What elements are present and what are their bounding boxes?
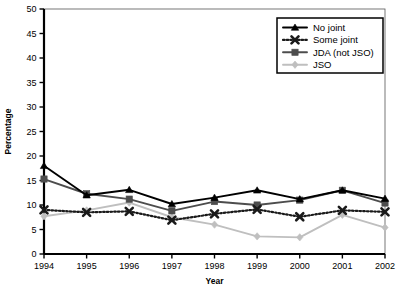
y-tick-label: 30 — [26, 102, 36, 112]
legend-label: JSO — [313, 59, 331, 70]
legend-label: No joint — [313, 22, 346, 33]
x-tick-label: 1994 — [34, 261, 54, 271]
y-axis-title: Percentage — [3, 108, 13, 154]
marker-diamond — [297, 234, 303, 241]
marker-triangle — [40, 162, 47, 168]
y-tick-label: 35 — [26, 78, 36, 88]
chart-container: 05101520253035404550Percentage1994199519… — [0, 0, 405, 289]
marker-diamond — [254, 233, 260, 240]
x-tick-label: 1997 — [162, 261, 182, 271]
marker-square — [169, 208, 175, 214]
y-tick-label: 25 — [26, 127, 36, 137]
marker-square — [292, 49, 298, 55]
y-tick-label: 15 — [26, 176, 36, 186]
marker-diamond — [382, 224, 388, 231]
legend-label: JDA (not JSO) — [313, 47, 374, 58]
x-tick-label: 1996 — [119, 261, 139, 271]
marker-square — [41, 176, 47, 182]
y-tick-label: 10 — [26, 200, 36, 210]
y-tick-label: 5 — [31, 225, 36, 235]
y-tick-label: 0 — [31, 249, 36, 259]
x-tick-label: 2002 — [375, 261, 395, 271]
series-jso — [41, 199, 388, 241]
line-chart: 05101520253035404550Percentage1994199519… — [0, 0, 405, 289]
legend: No jointSome jointJDA (not JSO)JSO — [277, 18, 383, 73]
x-tick-label: 1998 — [204, 261, 224, 271]
x-axis-title: Year — [206, 276, 225, 286]
y-tick-label: 40 — [26, 53, 36, 63]
series-no-joint — [40, 162, 388, 207]
marker-square — [126, 196, 132, 202]
x-tick-label: 2000 — [290, 261, 310, 271]
x-tick-label: 1995 — [77, 261, 97, 271]
x-tick-label: 1999 — [247, 261, 267, 271]
y-tick-label: 45 — [26, 29, 36, 39]
y-tick-label: 50 — [26, 4, 36, 14]
series-line — [44, 203, 385, 238]
y-axis: 05101520253035404550 — [26, 4, 44, 259]
y-tick-label: 20 — [26, 151, 36, 161]
marker-diamond — [211, 221, 217, 228]
legend-label: Some joint — [313, 34, 358, 45]
x-tick-label: 2001 — [332, 261, 352, 271]
x-axis: 199419951996199719981999200020012002 — [34, 254, 395, 271]
